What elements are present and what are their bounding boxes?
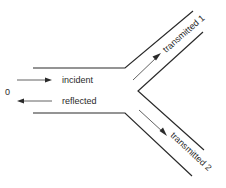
origin-label: 0 <box>5 87 10 97</box>
incident-arrow-icon <box>17 78 52 83</box>
y-junction-diagram: 0 incident reflected transmitted 1 trans… <box>0 0 226 188</box>
lower-outer-wall <box>33 113 192 176</box>
reflected-label: reflected <box>62 96 97 106</box>
incident-label: incident <box>62 75 94 85</box>
transmitted-2-label: transmitted 2 <box>169 130 214 173</box>
reflected-arrow-icon <box>17 99 52 104</box>
